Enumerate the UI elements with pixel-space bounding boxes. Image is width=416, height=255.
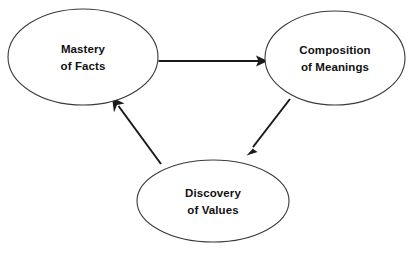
node-discovery-of-values-label-line2: of Values [187,204,238,216]
node-discovery-of-values-label-line1: Discovery [185,187,241,199]
node-composition-of-meanings-label-line2: of Meanings [301,61,369,73]
node-discovery-of-values-shape[interactable] [137,160,289,242]
node-mastery-of-facts-label-line2: of Facts [61,60,106,72]
edge-meanings-to-values-line [253,99,290,147]
cycle-diagram: Mastery of Facts Composition of Meanings… [0,0,416,255]
node-composition-of-meanings-label-line1: Composition [299,44,370,56]
diagram-canvas: Mastery of Facts Composition of Meanings… [0,0,416,255]
node-mastery-of-facts[interactable]: Mastery of Facts [8,9,158,105]
edge-values-to-facts [112,98,161,165]
edge-meanings-to-values-arrowhead [247,144,258,156]
node-composition-of-meanings[interactable]: Composition of Meanings [265,11,405,105]
node-mastery-of-facts-shape[interactable] [8,9,158,105]
node-mastery-of-facts-label-line1: Mastery [61,43,106,55]
edge-meanings-to-values [247,99,291,156]
edge-facts-to-meanings [159,56,269,67]
node-composition-of-meanings-shape[interactable] [265,11,405,105]
edge-values-to-facts-line [119,106,162,164]
node-discovery-of-values[interactable]: Discovery of Values [137,160,289,242]
